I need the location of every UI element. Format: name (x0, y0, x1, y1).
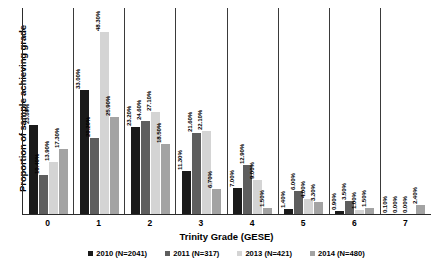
bar[interactable] (365, 208, 374, 214)
bar-column: 9.00% (253, 8, 262, 214)
bar-column: 7.00% (233, 8, 242, 214)
bar-group: 11.30%21.60%22.10%6.70% (175, 8, 226, 214)
bar[interactable] (192, 133, 201, 214)
bar[interactable] (80, 90, 89, 214)
bar-value-label: 10.40% (33, 154, 40, 174)
x-axis-tick-labels: 01234567 (22, 218, 431, 228)
bar-group: 0.10%0.00%0.00%2.40% (380, 8, 431, 214)
bar-column: 23.60% (29, 8, 38, 214)
bar[interactable] (416, 205, 425, 214)
legend-item[interactable]: 2010 (N=2041) (88, 249, 147, 258)
bar-value-label: 2.40% (411, 187, 418, 204)
bar-value-label: 21.60% (186, 112, 193, 132)
bar-value-label: 0.00% (391, 196, 398, 213)
bar-group: 33.00%20.20%48.30%25.90% (73, 8, 124, 214)
bar-group: 23.20%24.60%27.10%18.50% (124, 8, 175, 214)
bar-column: 1.50% (263, 8, 272, 214)
bar-value-label: 17.30% (53, 128, 60, 148)
bar-value-label: 13.90% (43, 141, 50, 161)
bar-column: 1.00% (355, 8, 364, 214)
bar-column: 20.20% (90, 8, 99, 214)
bar[interactable] (90, 138, 99, 214)
bar-value-label: 24.60% (135, 100, 142, 120)
bar-column: 1.50% (365, 8, 374, 214)
bar-group-bars: 33.00%20.20%48.30%25.90% (74, 8, 124, 214)
bar[interactable] (263, 208, 272, 214)
bar-value-label: 0.90% (330, 193, 337, 210)
bar-column: 27.10% (151, 8, 160, 214)
bar[interactable] (233, 188, 242, 214)
bar-value-label: 33.00% (74, 69, 81, 89)
bar-value-label: 1.00% (350, 192, 357, 209)
bar-group: 7.00%12.90%9.00%1.50% (227, 8, 278, 214)
x-tick-label: 7 (380, 218, 431, 228)
bar-column: 12.90% (243, 8, 252, 214)
legend-swatch-icon (88, 251, 93, 256)
bar-group-bars: 23.60%10.40%13.90%17.30% (23, 8, 73, 214)
bar[interactable] (284, 209, 293, 214)
bar[interactable] (182, 171, 191, 214)
bar[interactable] (161, 144, 170, 214)
bar-value-label: 1.50% (360, 191, 367, 208)
x-tick-label: 0 (22, 218, 73, 228)
bar-column: 25.90% (110, 8, 119, 214)
x-tick-label: 5 (278, 218, 329, 228)
bar-value-label: 23.20% (125, 106, 132, 126)
x-tick-label: 2 (124, 218, 175, 228)
bar-value-label: 3.50% (340, 183, 347, 200)
bar-group-bars: 0.10%0.00%0.00%2.40% (381, 8, 431, 214)
bar-column: 13.90% (49, 8, 58, 214)
legend-label: 2013 (N=421) (245, 249, 292, 258)
bar-value-label: 12.90% (237, 144, 244, 164)
bar[interactable] (110, 117, 119, 214)
bar[interactable] (100, 32, 109, 214)
bar-column: 2.40% (416, 8, 425, 214)
legend-swatch-icon (310, 251, 315, 256)
bar-value-label: 23.60% (23, 104, 30, 124)
legend-item[interactable]: 2011 (N=317) (165, 249, 219, 258)
bar-value-label: 25.90% (104, 95, 111, 115)
legend-swatch-icon (165, 251, 170, 256)
legend-label: 2011 (N=317) (173, 249, 219, 258)
bar-value-label: 3.30% (308, 184, 315, 201)
bar-value-label: 1.40% (278, 191, 285, 208)
bar-column: 3.50% (345, 8, 354, 214)
bar-value-label: 20.20% (84, 117, 91, 137)
bar-group-bars: 7.00%12.90%9.00%1.50% (228, 8, 278, 214)
bar-column: 0.10% (386, 8, 395, 214)
bar[interactable] (59, 149, 68, 214)
bar-value-label: 22.10% (196, 110, 203, 130)
bar[interactable] (141, 121, 150, 214)
legend-label: 2010 (N=2041) (96, 249, 147, 258)
x-axis-title: Trinity Grade (GESE) (22, 231, 431, 242)
plot-area: 23.60%10.40%13.90%17.30%33.00%20.20%48.3… (22, 8, 431, 215)
bar[interactable] (335, 211, 344, 214)
legend-item[interactable]: 2014 (N=480) (310, 249, 365, 258)
bar-column: 18.50% (161, 8, 170, 214)
bar[interactable] (39, 175, 48, 214)
bar[interactable] (314, 202, 323, 214)
bar-column: 10.40% (39, 8, 48, 214)
bar-value-label: 48.30% (94, 11, 101, 31)
bar[interactable] (304, 199, 313, 214)
bar-group: 0.90%3.50%1.00%1.50% (329, 8, 380, 214)
chart-legend: 2010 (N=2041)2011 (N=317)2013 (N=421)201… (22, 249, 431, 258)
bar-value-label: 9.00% (247, 162, 254, 179)
bar[interactable] (131, 127, 140, 214)
bar-value-label: 6.00% (288, 174, 295, 191)
bar-value-label: 1.50% (257, 191, 264, 208)
bar-column: 0.00% (396, 8, 405, 214)
bar[interactable] (212, 189, 221, 214)
bar-group-bars: 1.40%6.00%4.00%3.30% (279, 8, 329, 214)
bar-value-label: 27.10% (145, 91, 152, 111)
bar-group-bars: 23.20%24.60%27.10%18.50% (125, 8, 175, 214)
legend-item[interactable]: 2013 (N=421) (237, 249, 292, 258)
bar-column: 24.60% (141, 8, 150, 214)
bar[interactable] (49, 162, 58, 214)
bar-value-label: 11.30% (176, 151, 183, 171)
bar[interactable] (355, 210, 364, 214)
legend-label: 2014 (N=480) (318, 249, 365, 258)
bar-value-label: 0.10% (381, 196, 388, 213)
bar-column: 17.30% (59, 8, 68, 214)
bar-group: 1.40%6.00%4.00%3.30% (278, 8, 329, 214)
